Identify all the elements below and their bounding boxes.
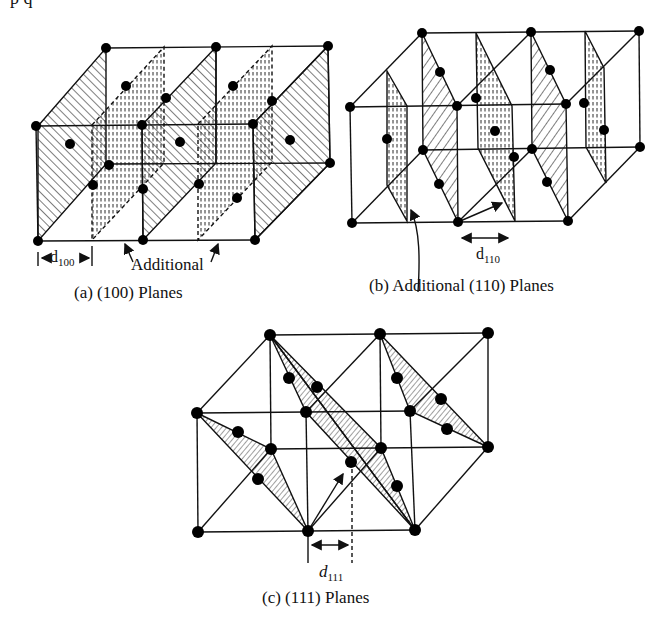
d111-label: d111 (319, 562, 343, 583)
diagram-a-100-planes (36, 46, 330, 266)
additional-annotation: Additional (131, 255, 204, 275)
caption-a: (a) (100) Planes (74, 283, 183, 303)
header-fragment: p q (10, 0, 33, 9)
d110-label: d110 (476, 245, 500, 265)
caption-c: (c) (111) Planes (262, 588, 369, 608)
crystal-planes-figure (0, 0, 668, 625)
caption-b: (b) Additional (110) Planes (369, 276, 554, 296)
d100-label: d100 (50, 248, 75, 268)
diagram-c-111-planes (197, 333, 488, 563)
